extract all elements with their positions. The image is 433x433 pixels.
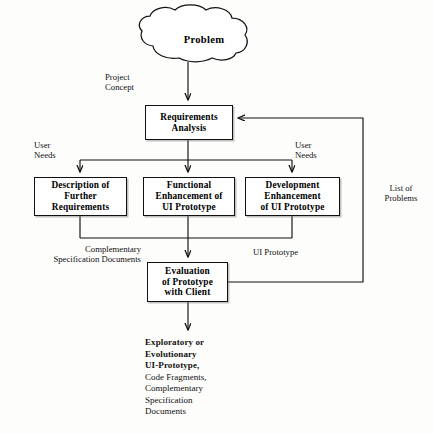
output-plain-line-3: Specification [145,395,192,405]
requirements-analysis-line2: Analysis [158,123,219,134]
edge-label-user-needs-right: User Needs [295,140,317,161]
description-line2: Further [49,191,111,202]
edge-label-complementary-specification-documents: Complementary Specification Documents [6,244,141,265]
requirements-analysis-line1: Requirements [158,112,219,123]
description-line1: Description of [49,180,111,191]
evaluation-line3: with Client [160,287,215,298]
functional-line2: Enhancement of [154,191,225,202]
description-line3: Requirements [49,202,111,213]
output-bold-line-2: Evolutionary [145,349,197,359]
output-plain-line-2: Complementary [145,383,203,393]
edge-label-project-concept: Project Concept [105,72,134,93]
problem-label: Problem [140,8,268,70]
evaluation-line1: Evaluation [160,266,215,277]
flowchart-canvas: Problem Requirements Analysis Descriptio… [0,0,433,433]
output-text-block: Exploratory or Evolutionary UI-Prototype… [145,337,275,418]
node-evaluation-with-client[interactable]: Evaluation of Prototype with Client [147,262,228,302]
development-line2: Enhancement [258,191,326,202]
node-functional-enhancement[interactable]: Functional Enhancement of UI Prototype [143,177,235,216]
functional-line1: Functional [154,180,225,191]
node-development-enhancement[interactable]: Development Enhancement of UI Prototype [245,177,340,216]
development-line1: Development [258,180,326,191]
problem-node: Problem [140,8,268,70]
evaluation-line2: of Prototype [160,277,215,288]
development-line3: of UI Prototype [258,202,326,213]
output-plain-line-1: Code Fragments, [145,372,207,382]
output-bold-line-1: Exploratory or [145,337,204,347]
edge-label-list-of-problems: List of Problems [373,183,429,204]
output-plain-line-4: Documents [145,406,186,416]
node-description-further-requirements[interactable]: Description of Further Requirements [34,177,127,216]
node-requirements-analysis[interactable]: Requirements Analysis [145,105,233,140]
output-bold-line-3: UI-Prototype, [145,360,199,370]
functional-line3: UI Prototype [154,202,225,213]
edge-label-user-needs-left: User Needs [34,140,56,161]
edge-label-ui-prototype: UI Prototype [253,247,298,257]
